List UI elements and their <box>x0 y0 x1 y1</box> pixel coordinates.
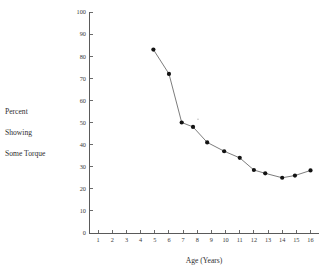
data-point-marker <box>293 173 297 177</box>
data-point-marker <box>205 140 209 144</box>
x-tick-label: 14 <box>279 236 286 243</box>
line-chart-plot: 0102030405060708090100 12345678910111213… <box>0 0 327 274</box>
axes-group <box>89 12 319 233</box>
y-tick-label: 50 <box>80 119 86 126</box>
y-tick-label: 30 <box>80 163 86 170</box>
x-tick-label: 7 <box>182 236 185 243</box>
print-artifacts-group <box>197 118 199 120</box>
x-tick-label: 3 <box>125 236 128 243</box>
data-point-marker <box>280 176 284 180</box>
x-tick-label: 4 <box>139 236 143 243</box>
x-axis-title: Age (Years) <box>186 256 223 265</box>
x-tick-label: 16 <box>307 236 313 243</box>
x-tick-label: 6 <box>167 236 170 243</box>
x-tick-label: 15 <box>293 236 299 243</box>
y-tick-label: 60 <box>80 97 86 104</box>
y-tick-label: 100 <box>77 8 86 15</box>
y-tick-label: 80 <box>80 53 86 60</box>
x-tick-label: 13 <box>265 236 271 243</box>
y-tick-label: 40 <box>80 141 86 148</box>
x-tick-label: 11 <box>237 236 243 243</box>
data-point-marker <box>238 156 242 160</box>
figure-container: Percent Showing Some Torque 010203040506… <box>0 0 327 274</box>
x-tick-label: 2 <box>111 236 114 243</box>
x-axis-ticks: 12345678910111213141516 <box>97 230 314 244</box>
data-series-group <box>151 47 312 179</box>
x-tick-label: 1 <box>97 236 100 243</box>
x-tick-label: 12 <box>251 236 257 243</box>
data-markers-group <box>151 47 312 179</box>
x-tick-label: 9 <box>210 236 213 243</box>
data-point-marker <box>191 125 195 129</box>
data-line-path <box>153 50 310 178</box>
y-axis-ticks: 0102030405060708090100 <box>77 8 93 236</box>
x-tick-label: 8 <box>196 236 199 243</box>
y-tick-label: 90 <box>80 30 86 37</box>
data-point-marker <box>167 72 171 76</box>
data-point-marker <box>151 47 155 51</box>
data-point-marker <box>308 168 312 172</box>
y-tick-label: 0 <box>83 229 86 236</box>
y-tick-label: 10 <box>80 207 86 214</box>
print-speck-artifact <box>197 118 199 120</box>
x-tick-label: 5 <box>153 236 156 243</box>
data-point-marker <box>263 171 267 175</box>
x-tick-label: 10 <box>222 236 228 243</box>
y-tick-label: 20 <box>80 185 86 192</box>
data-point-marker <box>222 149 226 153</box>
y-tick-label: 70 <box>80 75 86 82</box>
data-point-marker <box>252 168 256 172</box>
data-point-marker <box>180 120 184 124</box>
